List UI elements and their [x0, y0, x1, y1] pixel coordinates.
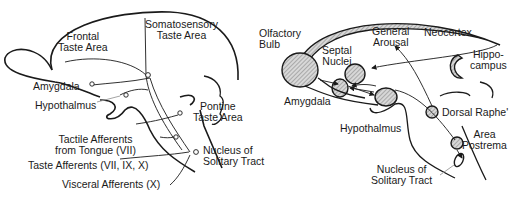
label-hypothalmus-right: Hypothalmus	[340, 123, 401, 134]
label-neocortex: Neocortex	[424, 27, 472, 38]
label-nucleus-solitary-tract-right: Nucleus of Solitary Tract	[371, 164, 432, 186]
label-amygdala-right: Amygdala	[284, 96, 331, 107]
label-line: Solitary Tract	[203, 156, 264, 167]
label-general-arousal: General Arousal	[372, 26, 409, 48]
label-dorsal-raphe: Dorsal Raphe'	[442, 107, 508, 118]
label-nucleus-solitary-tract-left: Nucleus of Solitary Tract	[203, 145, 264, 167]
label-line: Taste Area	[193, 112, 243, 123]
label-taste-afferents: Taste Afferents (VII, IX, X)	[28, 160, 149, 171]
label-amygdala-left: Amygdala	[33, 81, 80, 92]
label-area-postrema: Area Postrema	[462, 129, 507, 151]
label-line: Taste Area	[58, 42, 108, 53]
label-tactile-afferents: Tactile Afferents from Tongue (VII)	[55, 134, 136, 156]
label-line: Solitary Tract	[371, 175, 432, 186]
label-hippocampus: Hippo- campus	[470, 49, 507, 71]
label-pontine-taste-area: Pontine Taste Area	[193, 101, 243, 123]
label-hypothalmus-left: Hypothalmus	[35, 100, 96, 111]
label-line: from Tongue (VII)	[55, 145, 136, 156]
label-line: Bulb	[259, 39, 301, 50]
label-line: Taste Area	[145, 30, 218, 41]
label-line: Arousal	[372, 37, 409, 48]
label-septal-nuclei: Septal Nuclei	[322, 45, 352, 67]
label-line: campus	[470, 60, 507, 71]
brain-pathway-diagram: Frontal Taste Area Somatosensory Taste A…	[0, 0, 515, 207]
label-somatosensory-taste-area: Somatosensory Taste Area	[145, 19, 218, 41]
label-frontal-taste-area: Frontal Taste Area	[58, 31, 108, 53]
label-line: Postrema	[462, 140, 507, 151]
label-olfactory-bulb: Olfactory Bulb	[259, 28, 301, 50]
label-line: Nuclei	[322, 56, 352, 67]
label-visceral-afferents: Visceral Afferents (X)	[62, 179, 160, 190]
